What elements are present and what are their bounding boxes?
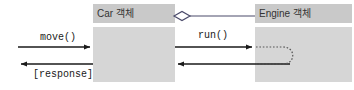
engine-object-label: Engine 객체 [259,9,311,19]
uml-collaboration-diagram: Car 객체 Engine 객체 move() [response] run() [0,0,354,90]
message-label-run: run() [198,31,228,41]
car-object-body [93,27,175,82]
aggregation-diamond-icon [174,12,190,21]
message-label-response: [response] [33,70,93,80]
engine-object-body [255,27,352,82]
message-label-move: move() [40,33,76,43]
car-object-label: Car 객체 [97,9,134,19]
